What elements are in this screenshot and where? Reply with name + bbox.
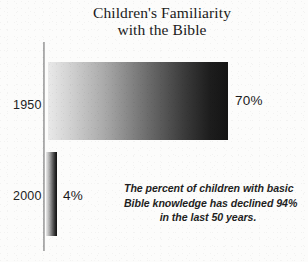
bar-2000 bbox=[46, 152, 57, 236]
value-label-2000: 4% bbox=[63, 188, 83, 203]
category-label-2000: 2000 bbox=[13, 189, 42, 203]
chart-title-line-2: with the Bible bbox=[48, 21, 276, 38]
value-label-1950: 70% bbox=[235, 93, 263, 108]
chart-annotation-line-2: Bible knowledge has declined 94% bbox=[124, 196, 292, 211]
category-label-1950: 1950 bbox=[13, 98, 42, 112]
chart-annotation-line-1: The percent of children with basic bbox=[124, 181, 292, 196]
chart-title-line-1: Children's Familiarity bbox=[48, 4, 276, 21]
chart-title: Children's Familiarity with the Bible bbox=[48, 4, 276, 38]
bar-1950 bbox=[48, 62, 228, 140]
chart-annotation: The percent of children with basic Bible… bbox=[124, 181, 292, 225]
bar-chart: Children's Familiarity with the Bible 19… bbox=[0, 0, 308, 262]
chart-annotation-line-3: in the last 50 years. bbox=[124, 210, 292, 225]
vertical-axis-line bbox=[43, 42, 45, 251]
